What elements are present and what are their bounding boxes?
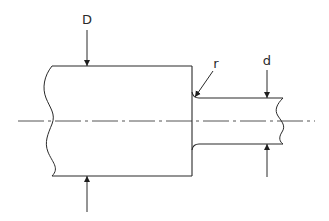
r-leader-arrow [195,71,213,97]
label-small-diameter: d [263,54,271,67]
label-fillet-radius: r [213,57,218,70]
label-large-diameter: D [82,13,92,26]
stepped-shaft-drawing [0,0,329,221]
